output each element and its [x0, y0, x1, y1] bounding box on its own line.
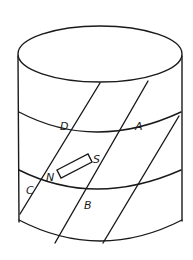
- label-c: C: [26, 184, 34, 197]
- label-b: B: [84, 199, 92, 212]
- label-d: D: [60, 120, 68, 133]
- cylinder-left-side: [18, 56, 19, 222]
- label-a: A: [134, 120, 143, 133]
- label-n: N: [46, 171, 54, 184]
- cylinder-diagram: D A S N C B: [0, 0, 193, 260]
- cylinder-bottom: [19, 220, 182, 241]
- cylinder-top: [18, 26, 182, 82]
- helix-line-3: [103, 116, 179, 243]
- helix-line-2: [55, 81, 148, 243]
- bar-magnet: [57, 154, 92, 178]
- label-s: S: [93, 153, 100, 166]
- lower-band-curve: [19, 170, 181, 189]
- upper-band-curve: [19, 112, 181, 132]
